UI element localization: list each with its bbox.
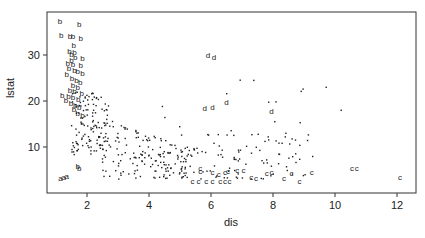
- point-label-c: c: [297, 177, 301, 186]
- point-label-c: c: [254, 174, 258, 183]
- point-label-c: c: [290, 169, 294, 178]
- y-tick-label: 30: [28, 49, 40, 61]
- x-axis: 24681012: [84, 193, 403, 211]
- point-label-d: d: [210, 103, 214, 112]
- x-tick-label: 8: [270, 199, 276, 211]
- point-label-b: b: [79, 34, 84, 43]
- point-label-c: c: [223, 177, 227, 186]
- point-label-b: b: [59, 31, 64, 40]
- point-label-b: b: [77, 20, 82, 29]
- point-label-c: c: [265, 169, 269, 178]
- point-label-b: b: [58, 17, 63, 26]
- point-label-c: c: [398, 173, 402, 182]
- point-label-d: d: [206, 51, 210, 60]
- point-label-c: c: [355, 164, 359, 173]
- point-label-c: c: [198, 164, 202, 173]
- point-label-c: c: [270, 168, 274, 177]
- x-tick-label: 4: [146, 199, 152, 211]
- point-label-c: c: [190, 177, 194, 186]
- point-label-d: d: [203, 104, 207, 113]
- point-label-d: d: [269, 107, 273, 116]
- point-label-c: c: [310, 168, 314, 177]
- point-label-c: c: [217, 170, 221, 179]
- point-label-c: c: [226, 167, 230, 176]
- point-label-c: c: [204, 177, 208, 186]
- y-tick-label: 20: [28, 95, 40, 107]
- x-axis-label: dis: [224, 216, 239, 228]
- point-label-a: a: [65, 172, 70, 181]
- point-label-b: b: [77, 164, 82, 173]
- point-label-c: c: [211, 168, 215, 177]
- scatter-dots: [71, 80, 342, 180]
- point-label-c: c: [350, 164, 354, 173]
- labeled-points: bbbbbbbbbbbbbbbbbbbbbbbbbbbbbbbbbbbbbbbb…: [58, 17, 402, 187]
- x-tick-label: 2: [84, 199, 90, 211]
- x-tick-label: 6: [208, 199, 214, 211]
- point-label-c: c: [242, 166, 246, 175]
- point-label-c: c: [211, 177, 215, 186]
- point-label-c: c: [249, 173, 253, 182]
- y-axis: 102030: [28, 49, 47, 153]
- point-label-b: b: [71, 32, 76, 41]
- scatter-plot: 24681012 102030 bbbbbbbbbbbbbbbbbbbbbbbb…: [0, 0, 425, 238]
- point-label-c: c: [228, 177, 232, 186]
- point-label-d: d: [224, 98, 228, 107]
- x-tick-label: 10: [329, 199, 341, 211]
- point-label-c: c: [282, 174, 286, 183]
- point-label-c: c: [197, 177, 201, 186]
- point-label-d: d: [212, 53, 216, 62]
- y-axis-label: lstat: [4, 78, 16, 98]
- x-tick-label: 12: [391, 199, 403, 211]
- point-label-b: b: [80, 111, 85, 120]
- point-label-c: c: [235, 166, 239, 175]
- plot-frame: [47, 12, 416, 193]
- point-label-b: b: [65, 70, 70, 79]
- y-tick-label: 10: [28, 141, 40, 153]
